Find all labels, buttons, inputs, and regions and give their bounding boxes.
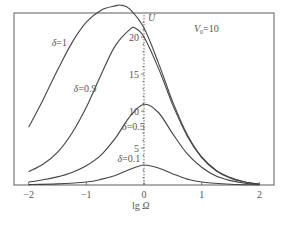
- y-tick-label: 15: [129, 69, 139, 80]
- y-tick-label: 10: [129, 106, 139, 117]
- x-tick-label: −1: [81, 189, 92, 200]
- annotation-v0: V0=10: [194, 23, 219, 35]
- curve-label: δ=0.9: [74, 83, 97, 94]
- x-tick-label: −2: [23, 189, 34, 200]
- curve-label: δ=1: [52, 37, 67, 48]
- chart: −2−10125101520 δ=1δ=0.9δ=0.5δ=0.1 U lg Ω…: [0, 0, 288, 229]
- curves: [29, 5, 260, 185]
- y-axis-label: U: [148, 12, 156, 23]
- x-tick-label: 2: [257, 189, 262, 200]
- curve-label: δ=0.1: [117, 153, 140, 164]
- x-tick-label: 0: [142, 189, 147, 200]
- curve-label: δ=0.5: [122, 121, 145, 132]
- curve-labels: δ=1δ=0.9δ=0.5δ=0.1: [52, 37, 145, 164]
- y-tick-label: 5: [134, 143, 139, 154]
- x-axis-label: lg Ω: [132, 200, 150, 211]
- y-tick-label: 20: [129, 32, 139, 43]
- x-tick-label: 1: [199, 189, 204, 200]
